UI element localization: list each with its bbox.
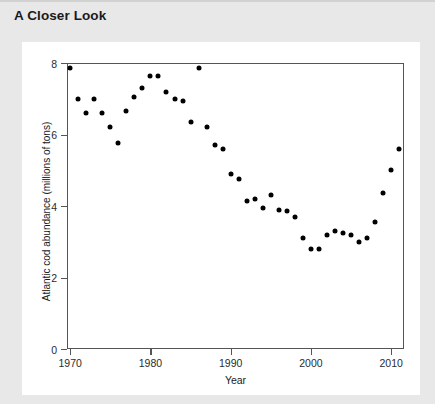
data-point — [252, 196, 257, 201]
data-point — [389, 168, 394, 173]
data-point — [397, 146, 402, 151]
data-point — [140, 86, 145, 91]
page-title: A Closer Look — [14, 8, 106, 23]
y-tick: 0 — [61, 349, 67, 350]
data-point — [324, 232, 329, 237]
y-tick-label: 4 — [51, 201, 57, 213]
data-point — [68, 66, 73, 71]
data-point — [124, 109, 129, 114]
y-tick-label: 2 — [51, 272, 57, 284]
data-point — [76, 96, 81, 101]
data-point — [373, 220, 378, 225]
data-point — [108, 125, 113, 130]
data-point — [276, 207, 281, 212]
y-tick-label: 6 — [51, 129, 57, 141]
x-tick-label: 2010 — [379, 357, 402, 369]
data-point — [204, 125, 209, 130]
data-point — [196, 66, 201, 71]
data-point — [220, 146, 225, 151]
data-point — [332, 229, 337, 234]
data-point — [244, 198, 249, 203]
data-point — [180, 98, 185, 103]
chart-panel: 02468 19701980199020002010 Atlantic cod … — [22, 42, 420, 395]
plot-frame — [67, 63, 404, 349]
data-point — [188, 119, 193, 124]
data-point — [349, 232, 354, 237]
data-point — [164, 89, 169, 94]
x-tick-label: 1970 — [59, 357, 82, 369]
x-tick-label: 2000 — [299, 357, 322, 369]
data-point — [236, 177, 241, 182]
data-point — [268, 193, 273, 198]
data-point — [300, 236, 305, 241]
y-axis-label: Atlantic cod abundance (millions of tons… — [41, 92, 52, 332]
data-point — [172, 96, 177, 101]
x-axis-label: Year — [67, 374, 404, 386]
data-point — [365, 236, 370, 241]
data-point — [132, 94, 137, 99]
x-tick-label: 1990 — [219, 357, 242, 369]
data-point — [228, 171, 233, 176]
data-point — [381, 191, 386, 196]
y-tick: 4 — [61, 206, 67, 207]
x-tick — [391, 349, 392, 355]
y-tick: 6 — [61, 135, 67, 136]
x-tick — [70, 349, 71, 355]
header: A Closer Look — [14, 8, 106, 23]
data-point — [100, 111, 105, 116]
data-point — [148, 73, 153, 78]
y-tick-label: 0 — [51, 344, 57, 356]
data-point — [92, 96, 97, 101]
data-point — [284, 209, 289, 214]
data-point — [212, 143, 217, 148]
data-point — [116, 141, 121, 146]
y-tick: 8 — [61, 63, 67, 64]
scatter-plot: 02468 19701980199020002010 Atlantic cod … — [22, 42, 420, 395]
x-tick — [311, 349, 312, 355]
data-point — [292, 214, 297, 219]
data-point — [308, 246, 313, 251]
y-tick-label: 8 — [51, 58, 57, 70]
data-point — [84, 111, 89, 116]
y-tick: 2 — [61, 278, 67, 279]
x-tick — [150, 349, 151, 355]
x-tick-label: 1980 — [139, 357, 162, 369]
x-tick — [231, 349, 232, 355]
data-point — [357, 239, 362, 244]
data-point — [341, 230, 346, 235]
data-point — [260, 205, 265, 210]
data-point — [156, 73, 161, 78]
top-rule — [0, 0, 435, 2]
data-point — [316, 246, 321, 251]
